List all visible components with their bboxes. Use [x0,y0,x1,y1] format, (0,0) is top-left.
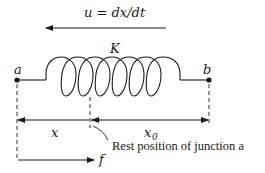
spring-coil [46,57,180,96]
displacement-label: x [51,125,59,140]
velocity-label: u = dx/dt [84,5,146,20]
spring-diagram: u = dx/dt K a b x x 0 Rest position of j… [0,0,265,173]
node-b-label: b [203,62,211,77]
node-a-label: a [14,62,22,77]
rest-length-label: x [144,125,152,140]
junction-a-dot [14,77,19,82]
spring-constant-label: K [109,41,121,56]
force-label: f [98,152,106,167]
rest-position-annotation: Rest position of junction a [112,139,244,153]
annotation-leader [93,126,108,140]
junction-b-dot [206,77,211,82]
